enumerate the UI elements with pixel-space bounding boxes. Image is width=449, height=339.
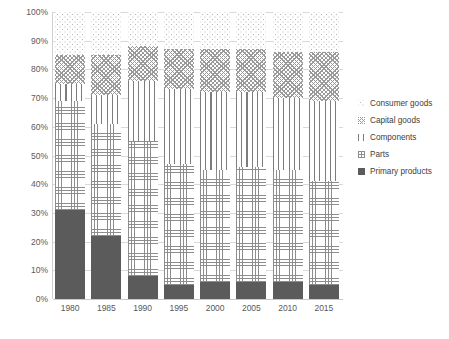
gridline-0 xyxy=(53,299,343,300)
solid-dark-swatch xyxy=(358,168,365,175)
bar-segment xyxy=(91,124,121,236)
bar-segment xyxy=(200,170,230,282)
bar-segment xyxy=(128,12,158,46)
bar-segment xyxy=(309,52,339,101)
legend-label: Components xyxy=(370,133,416,142)
bar-1985 xyxy=(91,12,121,299)
x-tick-1995: 1995 xyxy=(159,304,199,313)
x-tick-2015: 2015 xyxy=(304,304,344,313)
bar-segment xyxy=(273,282,303,299)
bar-1980 xyxy=(55,12,85,299)
crosshatch-swatch xyxy=(358,117,365,124)
x-tick-1980: 1980 xyxy=(50,304,90,313)
y-tick-100%: 100% xyxy=(4,8,48,17)
chart-legend: Consumer goodsCapital goodsComponentsPar… xyxy=(358,95,449,180)
bar-2005 xyxy=(236,12,266,299)
bar-segment xyxy=(55,55,85,84)
bar-segment xyxy=(91,12,121,55)
bar-segment xyxy=(164,12,194,49)
x-tick-2010: 2010 xyxy=(268,304,308,313)
legend-label: Primary products xyxy=(370,167,432,176)
y-tick-10%: 10% xyxy=(4,266,48,275)
bar-segment xyxy=(236,49,266,92)
legend-label: Parts xyxy=(370,150,389,159)
bar-1995 xyxy=(164,12,194,299)
bar-2015 xyxy=(309,12,339,299)
bar-segment xyxy=(200,92,230,169)
bar-segment xyxy=(236,12,266,49)
legend-label: Consumer goods xyxy=(370,99,432,108)
bar-segment xyxy=(164,89,194,164)
y-tick-70%: 70% xyxy=(4,94,48,103)
bar-segment xyxy=(164,164,194,285)
bar-segment xyxy=(91,95,121,124)
x-tick-1990: 1990 xyxy=(123,304,163,313)
bar-segment xyxy=(309,181,339,284)
y-tick-30%: 30% xyxy=(4,209,48,218)
bar-segment xyxy=(55,210,85,299)
vertical-stripes-swatch xyxy=(358,134,365,141)
x-tick-1985: 1985 xyxy=(86,304,126,313)
bar-segment xyxy=(91,55,121,95)
bar-segment xyxy=(273,98,303,170)
x-tick-2005: 2005 xyxy=(231,304,271,313)
bar-segment xyxy=(128,46,158,80)
legend-item-2[interactable]: Components xyxy=(358,129,449,145)
bar-segment xyxy=(128,81,158,141)
legend-item-1[interactable]: Capital goods xyxy=(358,112,449,128)
x-tick-2000: 2000 xyxy=(195,304,235,313)
bar-segment xyxy=(309,285,339,299)
bar-2010 xyxy=(273,12,303,299)
bar-segment xyxy=(200,282,230,299)
bar-segment xyxy=(128,276,158,299)
y-tick-90%: 90% xyxy=(4,37,48,46)
y-tick-20%: 20% xyxy=(4,238,48,247)
legend-label: Capital goods xyxy=(370,116,420,125)
bar-segment xyxy=(200,12,230,49)
bar-2000 xyxy=(200,12,230,299)
legend-item-3[interactable]: Parts xyxy=(358,146,449,162)
y-tick-80%: 80% xyxy=(4,65,48,74)
y-tick-40%: 40% xyxy=(4,180,48,189)
bar-segment xyxy=(236,92,266,167)
y-tick-0%: 0% xyxy=(4,295,48,304)
bar-segment xyxy=(200,49,230,92)
bar-segment xyxy=(55,84,85,101)
y-tick-60%: 60% xyxy=(4,123,48,132)
bar-segment xyxy=(164,285,194,299)
bar-segment xyxy=(309,101,339,181)
bar-segment xyxy=(55,101,85,210)
bar-segment xyxy=(273,170,303,282)
dotted-swatch xyxy=(358,100,365,107)
stacked-bar-chart: 0%10%20%30%40%50%60%70%80%90%100% 198019… xyxy=(0,0,449,339)
fine-grid-swatch xyxy=(358,151,365,158)
bar-segment xyxy=(273,52,303,98)
bar-segment xyxy=(91,236,121,299)
bar-segment xyxy=(273,12,303,52)
legend-item-0[interactable]: Consumer goods xyxy=(358,95,449,111)
bar-segment xyxy=(236,167,266,282)
y-tick-50%: 50% xyxy=(4,152,48,161)
legend-item-4[interactable]: Primary products xyxy=(358,163,449,179)
bar-segment xyxy=(128,141,158,276)
bar-1990 xyxy=(128,12,158,299)
bar-segment xyxy=(309,12,339,52)
bar-segment xyxy=(164,49,194,89)
bar-segment xyxy=(236,282,266,299)
bar-segment xyxy=(55,12,85,55)
